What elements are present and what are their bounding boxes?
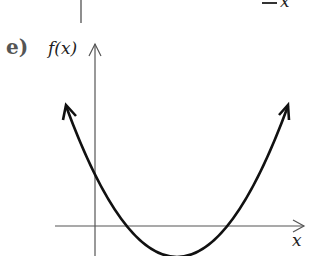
parabola-graph <box>0 0 314 256</box>
parabola-curve <box>66 106 288 256</box>
